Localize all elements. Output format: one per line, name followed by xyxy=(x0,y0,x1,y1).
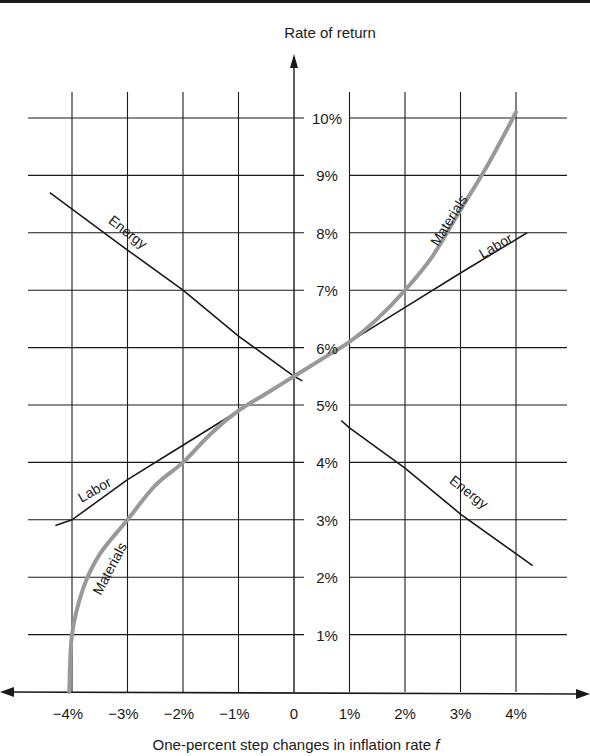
x-axis-left-arrow-icon xyxy=(0,687,14,697)
labor-label-left: Labor xyxy=(75,474,114,506)
materials-curve xyxy=(69,112,516,692)
y-axis-arrow-icon xyxy=(290,54,298,68)
y-tick-label: 10% xyxy=(312,110,342,127)
x-tick-label: 0 xyxy=(290,705,298,722)
x-tick-label: 1% xyxy=(339,705,361,722)
x-tick-label: 2% xyxy=(394,705,416,722)
axis-labels: Rate of return One-percent step changes … xyxy=(53,24,527,753)
energy-label-right: Energy xyxy=(447,472,492,512)
y-tick-label: 8% xyxy=(316,225,338,242)
y-axis-title: Rate of return xyxy=(284,24,376,41)
y-tick-label: 3% xyxy=(316,512,338,529)
x-tick-label: 4% xyxy=(505,705,527,722)
materials-label-right: Materials xyxy=(427,192,471,249)
y-tick-label: 4% xyxy=(316,454,338,471)
rate-of-return-chart: Rate of return One-percent step changes … xyxy=(0,0,590,756)
x-tick-label: −1% xyxy=(219,705,249,722)
x-axis xyxy=(6,692,582,694)
x-tick-label: 3% xyxy=(450,705,472,722)
labor-label-right: Labor xyxy=(476,230,515,262)
y-tick-label: 1% xyxy=(316,627,338,644)
x-axis-title: One-percent step changes in inflation ra… xyxy=(153,736,442,753)
x-tick-label: −2% xyxy=(164,705,194,722)
energy-line xyxy=(341,420,532,565)
x-tick-label: −3% xyxy=(108,705,138,722)
y-tick-label: 2% xyxy=(316,569,338,586)
x-tick-label: −4% xyxy=(53,705,83,722)
y-tick-label: 9% xyxy=(316,167,338,184)
y-tick-label: 6% xyxy=(316,340,338,357)
x-axis-right-arrow-icon xyxy=(576,689,590,699)
energy-line xyxy=(50,193,303,381)
energy-label-left: Energy xyxy=(106,212,151,252)
materials-label-left: Materials xyxy=(89,540,130,598)
y-tick-label: 5% xyxy=(316,397,338,414)
y-tick-label: 7% xyxy=(316,282,338,299)
grid xyxy=(28,92,567,692)
